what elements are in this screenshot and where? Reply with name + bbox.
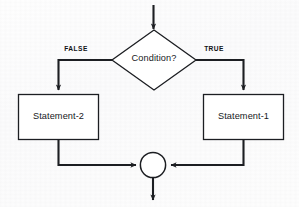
merge-node xyxy=(140,152,165,177)
edge-true-branch xyxy=(196,60,244,90)
edge-true-to-merge xyxy=(171,140,244,166)
true-branch-label: TRUE xyxy=(199,45,229,52)
flowchart-graphics xyxy=(0,0,299,207)
false-branch-label: FALSE xyxy=(60,45,92,52)
statement-true-label: Statement-1 xyxy=(203,111,284,121)
edge-false-branch xyxy=(59,60,113,90)
edge-false-to-merge xyxy=(59,140,137,166)
statement-false-label: Statement-2 xyxy=(18,111,99,121)
decision-label: Condition? xyxy=(112,53,196,63)
flowchart-canvas: Condition? Statement-2 Statement-1 FALSE… xyxy=(0,0,299,207)
